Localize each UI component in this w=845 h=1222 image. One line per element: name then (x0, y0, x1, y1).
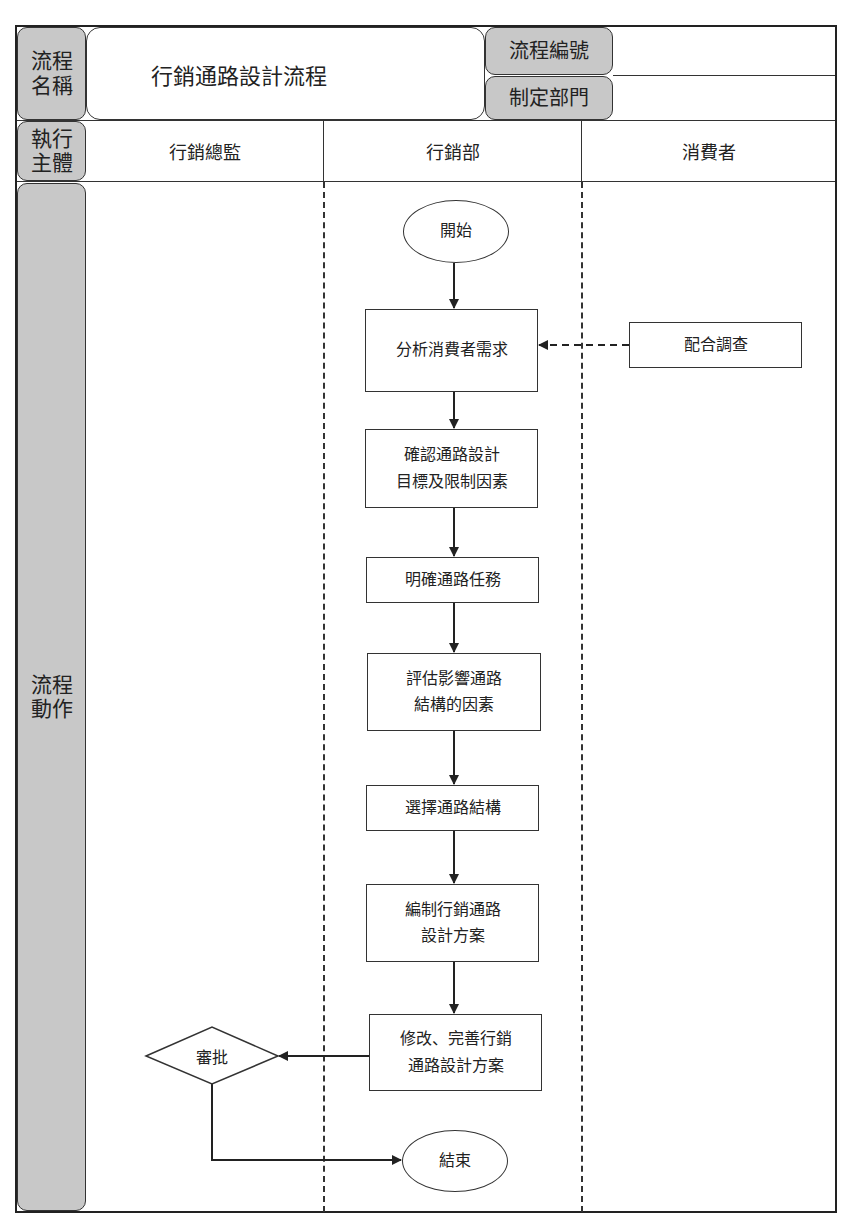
step-draft-design-plan[interactable]: 編制行銷通路 設計方案 (366, 884, 539, 962)
end-node[interactable]: 結束 (402, 1130, 508, 1192)
step-analyze-consumer-needs[interactable]: 分析消費者需求 (365, 309, 538, 392)
step-label: 分析消費者需求 (396, 337, 508, 363)
start-node[interactable]: 開始 (403, 200, 509, 263)
step-label: 明確通路任務 (405, 567, 501, 593)
step-select-channel-structure[interactable]: 選擇通路結構 (366, 785, 539, 831)
step-label-line1: 編制行銷通路 (405, 897, 501, 923)
decision-approve[interactable]: 審批 (146, 1027, 278, 1084)
step-cooperate-survey[interactable]: 配合調查 (629, 322, 802, 368)
step-evaluate-structure-factors[interactable]: 評估影響通路 結構的因素 (367, 653, 541, 731)
step-clarify-channel-tasks[interactable]: 明確通路任務 (366, 557, 539, 603)
step-label-line2: 目標及限制因素 (396, 469, 508, 495)
end-label: 結束 (439, 1148, 471, 1174)
step-revise-design-plan[interactable]: 修改、完善行銷 通路設計方案 (369, 1014, 542, 1091)
step-label-line2: 結構的因素 (406, 692, 502, 718)
step-label-line2: 通路設計方案 (400, 1053, 512, 1079)
decision-label: 審批 (196, 1044, 228, 1068)
arrow-decision-to-end (212, 1084, 401, 1160)
step-label-line1: 修改、完善行銷 (400, 1026, 512, 1052)
step-label: 選擇通路結構 (405, 795, 501, 821)
step-label-line1: 評估影響通路 (406, 666, 502, 692)
step-confirm-design-goals[interactable]: 確認通路設計 目標及限制因素 (365, 429, 538, 508)
step-label-line2: 設計方案 (405, 923, 501, 949)
step-label: 配合調查 (684, 332, 748, 358)
start-label: 開始 (440, 218, 472, 244)
step-label-line1: 確認通路設計 (396, 442, 508, 468)
